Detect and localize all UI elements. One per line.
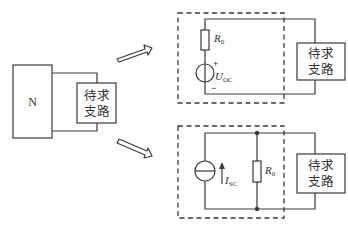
plus-sign: + <box>213 59 218 69</box>
current-source-label: ISC <box>224 174 238 188</box>
arrow-to-thevenin-icon <box>117 45 152 62</box>
network-n-label: N <box>28 95 37 109</box>
network-connection-wire <box>52 73 97 83</box>
junction-node-icon <box>255 207 259 211</box>
unknown-branch-label-line2: 支路 <box>84 104 110 119</box>
equivalent-circuit-diagram: N 待求 支路 R0 + − UOC 待求 支路 <box>0 0 348 229</box>
junction-node-icon <box>255 131 259 135</box>
voltage-source-label: UOC <box>215 70 233 84</box>
thevenin-equivalent-circuit: R0 + − UOC 待求 支路 <box>178 13 345 103</box>
norton-resistor-label: R0 <box>264 164 276 178</box>
norton-branch-label-line2: 支路 <box>308 174 334 189</box>
norton-branch-label-line1: 待求 <box>308 158 334 173</box>
minus-sign: − <box>211 83 216 93</box>
norton-equivalent-circuit: ISC R0 待求 支路 <box>178 126 345 218</box>
thevenin-dashed-boundary <box>178 13 284 103</box>
thevenin-branch-label-line1: 待求 <box>308 46 334 61</box>
norton-resistor-r0-icon <box>253 161 261 182</box>
thevenin-bottom-wire <box>205 80 315 94</box>
original-network: N 待求 支路 <box>13 65 116 138</box>
current-arrowhead-icon <box>219 162 225 169</box>
unknown-branch-label-line1: 待求 <box>84 88 110 103</box>
arrow-to-norton-icon <box>117 139 152 158</box>
network-connection-wire <box>52 123 97 131</box>
thevenin-resistor-label: R0 <box>213 32 225 46</box>
resistor-r0-icon <box>201 30 209 50</box>
thevenin-branch-label-line2: 支路 <box>308 62 334 77</box>
